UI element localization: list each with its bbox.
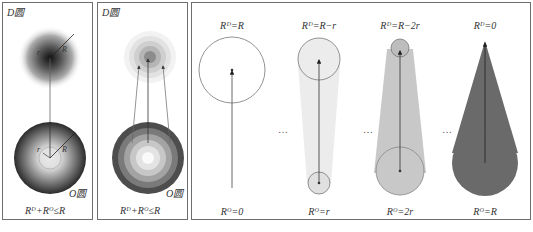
o-circle-label: O圆 (69, 188, 88, 199)
d-circle-label: D圆 (6, 7, 26, 18)
stage-2 (298, 38, 340, 194)
top-label-stage-1: Rᴰ=R (219, 20, 244, 31)
stage-1 (199, 37, 265, 188)
bottom-label-stage-4: Rᴼ=R (472, 206, 497, 217)
d-rings (124, 31, 176, 83)
top-label-stage-4: Rᴰ=0 (473, 20, 497, 31)
ellipsis-1: … (278, 124, 288, 135)
stage-3 (374, 39, 426, 195)
panel-continuous-figure: D圆 r R r R O圆 Rᴰ+Rᴼ≤R (3, 3, 94, 221)
panel-progression: Rᴰ=R Rᴼ=0 … Rᴰ=R−r Rᴼ=r … Rᴰ=R−2r Rᴼ=2r … (191, 2, 531, 220)
stage-4 (452, 41, 518, 196)
condition-label: Rᴰ+Rᴼ≤R (119, 205, 160, 216)
o-circle-label: O圆 (166, 188, 185, 199)
top-label-stage-2: Rᴰ=R−r (301, 20, 337, 31)
bottom-label-stage-3: Rᴼ=2r (386, 206, 414, 217)
panel-progression-figure: Rᴰ=R Rᴼ=0 … Rᴰ=R−r Rᴼ=r … Rᴰ=R−2r Rᴼ=2r … (192, 3, 532, 221)
bottom-label-stage-1: Rᴼ=0 (220, 206, 244, 217)
ellipsis-2: … (363, 124, 373, 135)
panel-continuous: D圆 r R r R O圆 Rᴰ+Rᴼ≤R (2, 2, 93, 220)
ellipsis-3: … (442, 124, 452, 135)
panel-discrete-figure: D圆 O圆 Rᴰ+Rᴼ≤R (98, 3, 189, 221)
bottom-label-stage-2: Rᴼ=r (307, 206, 330, 217)
o-outer-radius-label: R (61, 145, 67, 154)
d-circle-label: D圆 (101, 7, 121, 18)
top-label-stage-3: Rᴰ=R−2r (379, 20, 420, 31)
d-outer-radius-label: R (61, 45, 67, 54)
condition-label: Rᴰ+Rᴼ≤R (24, 205, 65, 216)
panel-discrete: D圆 O圆 Rᴰ+Rᴼ≤R (97, 2, 188, 220)
